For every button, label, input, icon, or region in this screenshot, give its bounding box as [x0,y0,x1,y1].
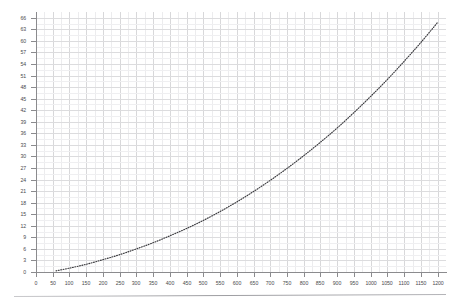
y-axis-tick-label: 57 [2,50,26,55]
y-axis-tick [31,41,36,42]
x-axis-tick [354,273,355,277]
y-axis-tick-label: 12 [2,224,26,229]
x-axis-tick [136,273,137,277]
x-axis-tick [387,273,388,277]
y-axis-tick-label: 15 [2,212,26,217]
x-axis-tick [371,273,372,277]
y-axis-tick-label: 24 [2,178,26,183]
y-axis-tick [31,29,36,30]
y-axis-tick-label: 63 [2,27,26,32]
y-axis-tick-label: 60 [2,39,26,44]
x-axis-tick [438,273,439,277]
x-axis-tick-label: 1200 [423,281,453,286]
y-axis-line [36,12,37,273]
y-axis-tick [31,52,36,53]
y-axis-tick-label: 51 [2,74,26,79]
x-axis-tick [187,273,188,277]
plot-area [36,12,446,272]
x-axis-tick [421,273,422,277]
y-axis-tick-label: 54 [2,62,26,67]
y-axis-tick [31,110,36,111]
x-axis-tick [53,273,54,277]
y-axis-tick-label: 39 [2,120,26,125]
y-axis-tick [31,180,36,181]
y-axis-tick [31,226,36,227]
x-axis-tick [337,273,338,277]
chart-figure: 0369121518212427303336394245485154576063… [0,0,458,305]
y-axis-tick [31,249,36,250]
y-axis-tick [31,191,36,192]
x-axis-tick [287,273,288,277]
y-axis-tick-label: 6 [2,247,26,252]
y-axis-tick [31,64,36,65]
x-axis-tick [254,273,255,277]
x-axis-line [36,272,447,273]
y-axis-tick [31,18,36,19]
x-axis-tick [270,273,271,277]
y-axis-tick-label: 18 [2,201,26,206]
y-axis-tick-label: 3 [2,258,26,263]
x-axis-tick [220,273,221,277]
x-axis-tick [404,273,405,277]
y-axis-tick [31,237,36,238]
x-axis-tick [120,273,121,277]
y-axis-tick-label: 33 [2,143,26,148]
series-layer [36,12,446,272]
footer-rule [14,294,446,297]
y-axis-tick-label: 42 [2,108,26,113]
x-axis-tick [103,273,104,277]
y-axis-tick [31,168,36,169]
y-axis-tick-label: 48 [2,85,26,90]
x-axis-tick [203,273,204,277]
y-axis-tick-label: 0 [2,270,26,275]
x-axis-tick [153,273,154,277]
y-axis-tick [31,76,36,77]
y-axis-tick-label: 66 [2,16,26,21]
y-axis-tick [31,145,36,146]
y-axis-tick-label: 21 [2,189,26,194]
y-axis-tick [31,133,36,134]
y-axis-tick-label: 27 [2,166,26,171]
x-axis-tick [304,273,305,277]
x-axis-tick [36,273,37,277]
y-axis-tick [31,156,36,157]
x-axis-tick [69,273,70,277]
y-axis-tick [31,214,36,215]
y-axis-tick-label: 45 [2,97,26,102]
y-axis-tick-label: 36 [2,131,26,136]
y-axis-tick [31,203,36,204]
x-axis-tick [170,273,171,277]
y-axis-tick-label: 30 [2,154,26,159]
y-axis-tick [31,87,36,88]
data-series-curve [56,22,438,270]
x-axis-tick [320,273,321,277]
y-axis-tick [31,99,36,100]
y-axis-tick [31,122,36,123]
y-axis-tick [31,260,36,261]
y-axis-tick-label: 9 [2,235,26,240]
x-axis-tick [86,273,87,277]
x-axis-tick [237,273,238,277]
